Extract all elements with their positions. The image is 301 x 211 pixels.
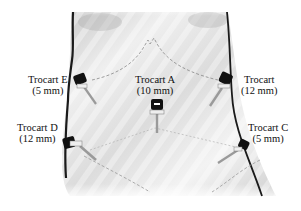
trocart-c-name: Trocart C (248, 122, 288, 133)
trocart-d-size: (12 mm) (17, 133, 58, 144)
trocart-b-size: (12 mm) (241, 85, 277, 96)
trocart-b-name: Trocart (241, 74, 277, 85)
trocart-a-name: Trocart A (135, 74, 175, 85)
trocart-c-label: Trocart C (5 mm) (248, 122, 288, 144)
torso-illustration (0, 0, 301, 211)
trocart-b-label: Trocart (12 mm) (241, 74, 277, 96)
trocart-d-name: Trocart D (17, 122, 58, 133)
trocart-e-name: Trocart E (28, 74, 68, 85)
trocart-c-size: (5 mm) (248, 133, 288, 144)
trocart-d-label: Trocart D (12 mm) (17, 122, 58, 144)
trocart-e-size: (5 mm) (28, 85, 68, 96)
torso-diagram: Trocart E (5 mm) Trocart A (10 mm) Troca… (0, 0, 301, 211)
trocart-e-label: Trocart E (5 mm) (28, 74, 68, 96)
trocart-a-size: (10 mm) (135, 85, 175, 96)
trocart-a-label: Trocart A (10 mm) (135, 74, 175, 96)
